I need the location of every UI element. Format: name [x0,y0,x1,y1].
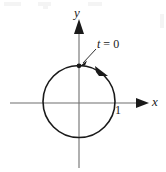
direction-arrowhead [95,66,108,76]
start-point-equals: = [103,37,110,51]
start-point-value: 0 [113,37,119,51]
y-axis-arrowhead [74,19,84,34]
start-point-variable: t [97,37,100,51]
y-axis-label: y [74,6,80,19]
x-tick-label-one: 1 [115,104,121,116]
diagram-canvas [0,0,166,172]
scan-artifacts [4,2,164,28]
start-point-label: t=0 [97,38,119,50]
x-axis-label: x [152,95,158,108]
x-axis-arrowhead [136,98,149,108]
unit-circle-diagram: y x t=0 1 [0,0,166,172]
callout-leader-line [83,49,96,63]
